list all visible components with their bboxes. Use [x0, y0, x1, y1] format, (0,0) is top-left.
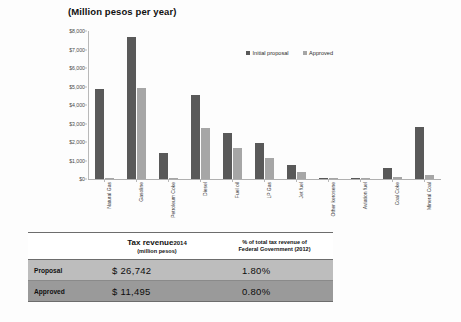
y-axis-tick-mark — [84, 86, 87, 87]
bar-group — [152, 31, 184, 179]
bar-initial-proposal — [255, 143, 264, 179]
table-header-percent-line2: Federal Government (2012) — [216, 246, 333, 253]
y-axis-tick-mark — [84, 123, 87, 124]
bar-initial-proposal — [159, 153, 168, 179]
x-axis-tick-mark — [136, 179, 137, 182]
y-axis-tick-mark — [84, 160, 87, 161]
table-cell-row-label: Proposal — [28, 260, 98, 281]
table-row: Approved$ 11,4950.80% — [28, 281, 333, 302]
bar-group — [184, 31, 216, 179]
bar-approved — [233, 148, 242, 179]
bar-group — [88, 31, 120, 179]
plot-area — [88, 31, 440, 179]
x-axis-tick-mark — [168, 179, 169, 182]
bar-initial-proposal — [415, 127, 424, 179]
bar-group — [312, 31, 344, 179]
x-axis-tick-mark — [424, 179, 425, 182]
bar-approved — [137, 88, 146, 179]
bar-group — [376, 31, 408, 179]
x-axis-category-label: Mineral Coal — [426, 182, 432, 210]
y-axis-tick-mark — [84, 179, 87, 180]
bar-initial-proposal — [383, 168, 392, 179]
x-axis-category-label: Jet fuel — [298, 182, 304, 198]
y-axis-tick-label: $1,000 — [69, 158, 85, 164]
table-header-revenue: Tax revenue2014 (million pesos) — [98, 233, 216, 260]
table-header-revenue-sub: (million pesos) — [98, 248, 216, 255]
bar-initial-proposal — [223, 133, 232, 179]
x-axis-tick-mark — [264, 179, 265, 182]
x-axis-category-label: Other kerosene — [330, 182, 336, 216]
x-axis-category-label: Natural Gas — [106, 182, 112, 209]
x-axis-tick-mark — [200, 179, 201, 182]
y-axis-labels: $8,000$7,000$6,000$5,000$4,000$3,000$2,0… — [56, 31, 85, 179]
bar-approved — [297, 172, 306, 179]
bar-initial-proposal — [319, 178, 328, 179]
bar-group — [280, 31, 312, 179]
table-cell-percent: 1.80% — [216, 260, 333, 281]
x-axis-tick-mark — [296, 179, 297, 182]
y-axis-tick-label: $4,000 — [69, 102, 85, 108]
bar-approved — [393, 177, 402, 179]
table-header-row: Tax revenue2014 (million pesos) % of tot… — [28, 233, 333, 260]
x-axis-category-label: Coal Coke — [394, 182, 400, 205]
table-header-label — [28, 233, 98, 260]
x-axis-tick-mark — [328, 179, 329, 182]
tax-revenue-table: Tax revenue2014 (million pesos) % of tot… — [28, 232, 333, 302]
table-row: Proposal$ 26,7421.80% — [28, 260, 333, 281]
x-axis-category-label: Diesel — [202, 182, 208, 196]
table-cell-tax-revenue: $ 11,495 — [98, 281, 216, 302]
table-header-revenue-year: 2014 — [173, 240, 186, 246]
x-axis-category-label: Fuel oil — [234, 182, 240, 198]
bar-initial-proposal — [191, 95, 200, 179]
x-axis-tick-mark — [360, 179, 361, 182]
bar-approved — [361, 178, 370, 179]
x-axis-category-label: Gasoline — [138, 182, 144, 202]
chart-title: (Million pesos per year) — [68, 6, 177, 17]
bar-group — [248, 31, 280, 179]
bar-initial-proposal — [351, 178, 360, 179]
x-axis-tick-mark — [232, 179, 233, 182]
x-axis-category-label: LP Gas — [266, 182, 272, 199]
y-axis-tick-mark — [84, 142, 87, 143]
x-axis-tick-mark — [392, 179, 393, 182]
y-axis-tick-mark — [84, 68, 87, 69]
bar-approved — [105, 178, 114, 179]
y-axis-tick-label: $3,000 — [69, 121, 85, 127]
y-axis-tick-label: $6,000 — [69, 65, 85, 71]
table-cell-row-label: Approved — [28, 281, 98, 302]
bar-group — [216, 31, 248, 179]
y-axis-tick-mark — [84, 105, 87, 106]
x-axis-category-label: Petroleum Coke — [170, 182, 176, 218]
bar-initial-proposal — [127, 37, 136, 179]
x-axis-tick-mark — [104, 179, 105, 182]
y-axis-tick-label: $2,000 — [69, 139, 85, 145]
bar-initial-proposal — [95, 89, 104, 179]
x-axis-category-label: Aviation fuel — [362, 182, 368, 209]
table-body: Proposal$ 26,7421.80%Approved$ 11,4950.8… — [28, 260, 333, 302]
bar-approved — [169, 178, 178, 179]
bar-group — [120, 31, 152, 179]
table-header-revenue-main: Tax revenue — [127, 238, 173, 247]
table-cell-tax-revenue: $ 26,742 — [98, 260, 216, 281]
y-axis-tick-mark — [84, 31, 87, 32]
bar-approved — [265, 158, 274, 179]
table-header-percent-line1: % of total tax revenue of — [216, 239, 333, 246]
y-axis-tick-label: $7,000 — [69, 47, 85, 53]
bar-initial-proposal — [287, 165, 296, 179]
y-axis-tick-label: $8,000 — [69, 28, 85, 34]
bar-chart-panel: (Million pesos per year) Initial proposa… — [0, 0, 461, 228]
bar-approved — [425, 175, 434, 179]
y-axis-tick-label: $5,000 — [69, 84, 85, 90]
bar-group — [408, 31, 440, 179]
bar-group — [344, 31, 376, 179]
bar-approved — [201, 128, 210, 179]
y-axis-tick-mark — [84, 49, 87, 50]
table-cell-percent: 0.80% — [216, 281, 333, 302]
table-header-percent: % of total tax revenue of Federal Govern… — [216, 233, 333, 260]
bar-approved — [329, 178, 338, 179]
